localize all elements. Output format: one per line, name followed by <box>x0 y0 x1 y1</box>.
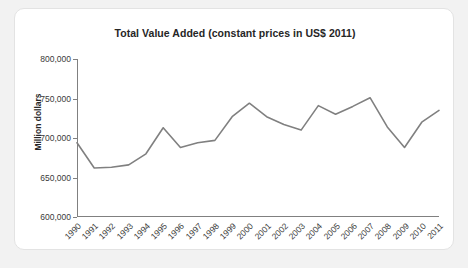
y-tick-label: 700,000 <box>23 133 71 143</box>
y-tick-label: 800,000 <box>23 54 71 64</box>
y-tick-label: 600,000 <box>23 212 71 222</box>
y-axis-title: Million dollars <box>33 77 43 167</box>
x-tick-label-text: 1990 <box>63 221 83 241</box>
plot-area: 600,000650,000700,000750,000800,000 1990… <box>77 59 439 217</box>
x-tick-label: 2011 <box>438 208 458 228</box>
series-polyline <box>77 98 439 168</box>
y-tick-label: 650,000 <box>23 173 71 183</box>
line-series <box>77 59 439 217</box>
chart-card: Total Value Added (constant prices in US… <box>14 8 454 250</box>
chart-title: Total Value Added (constant prices in US… <box>15 27 455 39</box>
y-tick-mark <box>73 217 77 218</box>
chart-page: Total Value Added (constant prices in US… <box>0 0 468 268</box>
y-tick-label: 750,000 <box>23 94 71 104</box>
